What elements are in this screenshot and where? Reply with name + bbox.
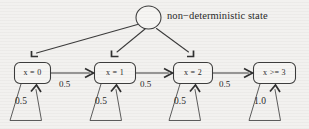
self-loop-label-s0: 0.5 <box>15 97 27 107</box>
state-label-s0: x = 0 <box>15 69 51 77</box>
state-label-s1: x = 1 <box>95 69 136 77</box>
transition-label-s2-s3: 0.5 <box>219 80 230 89</box>
nondeterministic-edge-to-s2 <box>157 29 194 57</box>
nondeterministic-state-circle <box>136 6 161 29</box>
state-label-s2: x = 2 <box>174 69 213 77</box>
self-loop-label-s1: 0.5 <box>95 97 107 107</box>
nondeterministic-edge-to-s1 <box>112 29 146 57</box>
self-loop-label-s2: 0.5 <box>174 97 186 107</box>
transition-edge-s2-s3 <box>213 69 253 78</box>
self-loop-label-s3: 1.0 <box>254 97 266 107</box>
transition-edge-s0-s1 <box>51 69 94 78</box>
nondeterministic-state-caption: non−deterministic state <box>167 11 268 22</box>
nondeterministic-edge-to-s0 <box>32 25 138 57</box>
transition-edge-s1-s2 <box>136 69 173 78</box>
transition-label-s0-s1: 0.5 <box>59 80 70 89</box>
state-label-s3: x >= 3 <box>254 69 296 77</box>
state-diagram: non−deterministic state x = 0 x = 1 x = … <box>0 0 309 129</box>
transition-label-s1-s2: 0.5 <box>140 80 151 89</box>
